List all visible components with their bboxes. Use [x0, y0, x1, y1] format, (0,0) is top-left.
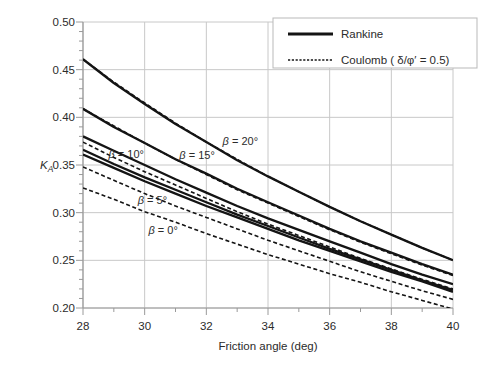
beta-annotation: β = 0° [148, 224, 178, 236]
x-tick-label: 30 [138, 320, 151, 332]
y-tick-label: 0.35 [53, 159, 75, 171]
beta-annotation: β = 20° [222, 135, 258, 147]
y-tick-label: 0.20 [53, 302, 75, 314]
legend-rankine-label: Rankine [341, 28, 383, 40]
y-tick-label: 0.40 [53, 111, 75, 123]
curve-annotations: β = 10°β = 15°β = 20°β = 5°β = 0° [107, 135, 258, 236]
legend: Rankine Coulomb ( δ/φ′ = 0.5) [273, 18, 477, 68]
y-tick-label: 0.45 [53, 64, 75, 76]
x-tick-label: 34 [262, 320, 275, 332]
x-axis-title: Friction angle (deg) [218, 340, 317, 352]
y-tick-label: 0.50 [53, 16, 75, 28]
x-tick-label: 28 [77, 320, 90, 332]
legend-coulomb-label: Coulomb ( δ/φ′ = 0.5) [341, 54, 450, 66]
beta-annotation: β = 5° [137, 194, 167, 206]
y-axis-title-sub: A [47, 164, 54, 174]
y-tick-label: 0.30 [53, 207, 75, 219]
y-axis-title: KA [40, 159, 54, 174]
x-tick-label: 36 [323, 320, 336, 332]
beta-annotation: β = 15° [178, 149, 214, 161]
beta-annotation: β = 10° [107, 148, 143, 160]
x-tick-label: 40 [447, 320, 460, 332]
x-tick-label: 38 [385, 320, 398, 332]
chart-svg: 0.500.450.400.350.300.250.20283032343638… [0, 0, 483, 373]
y-tick-label: 0.25 [53, 254, 75, 266]
chart-figure: 0.500.450.400.350.300.250.20283032343638… [0, 0, 483, 373]
x-tick-label: 32 [200, 320, 213, 332]
